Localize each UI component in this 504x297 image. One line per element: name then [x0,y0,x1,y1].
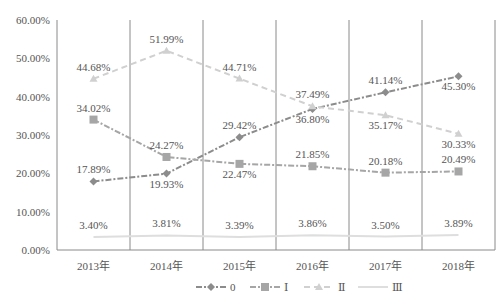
data-label: 3.86% [298,217,326,229]
data-label: 3.89% [444,217,472,229]
diamond-marker [163,170,171,178]
data-label: 41.14% [369,74,403,86]
data-label: 3.39% [225,219,253,231]
diamond-marker [455,72,463,80]
square-marker [236,160,244,168]
data-label: 45.30% [442,80,476,92]
legend-label: 0 [230,281,236,293]
triangle-marker [163,47,171,54]
legend-label: Ⅲ [392,281,403,293]
legend: 0ⅠⅡⅢ [196,281,403,293]
series-line [94,235,459,237]
y-tick-label: 60.00% [16,14,50,26]
x-tick-label: 2013年 [77,259,110,272]
square-marker [163,153,171,161]
data-label: 17.89% [77,163,111,175]
data-label: 36.80% [296,113,330,125]
data-label: 20.18% [369,155,403,167]
y-tick-label: 0.00% [22,244,50,256]
data-label: 3.50% [371,219,399,231]
y-tick-label: 10.00% [16,206,50,218]
diamond-marker [90,177,98,185]
square-marker [382,169,390,177]
data-label: 51.99% [150,33,184,45]
square-marker [309,162,317,170]
legend-label: Ⅰ [284,281,288,293]
square-marker [455,167,463,175]
y-axis-ticks: 0.00%10.00%20.00%30.00%40.00%50.00%60.00… [16,14,50,256]
diamond-marker [207,283,215,291]
diamond-marker [236,133,244,141]
data-label: 29.42% [223,119,257,131]
data-label: 19.93% [150,178,184,190]
y-tick-label: 50.00% [16,52,50,64]
data-label: 44.68% [77,61,111,73]
data-label: 3.40% [79,219,107,231]
y-tick-label: 20.00% [16,167,50,179]
data-label: 21.85% [296,148,330,160]
data-label: 34.02% [77,102,111,114]
data-label: 22.47% [223,168,257,180]
data-label: 37.49% [296,88,330,100]
data-label: 20.49% [442,153,476,165]
y-tick-label: 40.00% [16,91,50,103]
square-marker [90,116,98,124]
x-tick-label: 2014年 [150,259,183,272]
line-chart: 0.00%10.00%20.00%30.00%40.00%50.00%60.00… [0,0,504,297]
data-label: 30.33% [442,138,476,150]
legend-label: Ⅱ [338,281,345,293]
y-tick-label: 30.00% [16,129,50,141]
x-tick-label: 2018年 [442,259,475,272]
diamond-marker [382,88,390,96]
square-marker [261,283,269,291]
x-tick-label: 2016年 [296,259,329,272]
x-tick-label: 2017年 [369,259,402,272]
data-label: 44.71% [223,61,257,73]
data-label: 35.17% [369,119,403,131]
data-label: 24.27% [150,139,184,151]
x-tick-label: 2015年 [223,259,256,272]
x-axis-ticks: 2013年2014年2015年2016年2017年2018年 [77,259,475,272]
data-label: 3.81% [152,217,180,229]
